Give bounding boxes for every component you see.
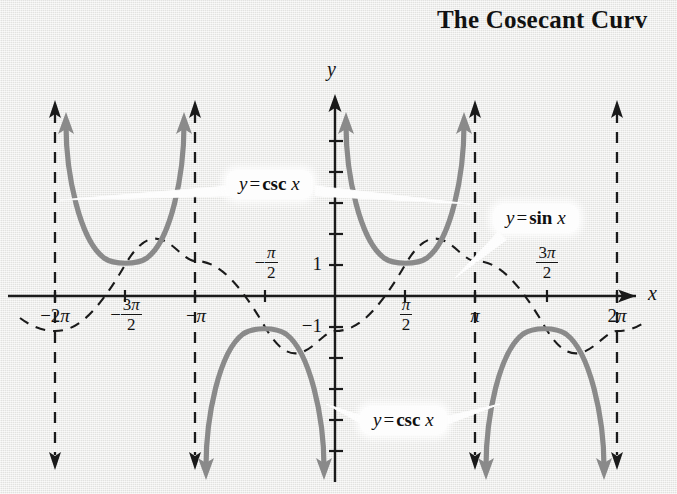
callout-csc-upper: y=csc x: [226, 170, 313, 199]
asymptote-neg-pi: [189, 100, 201, 470]
asymptote-neg-2pi: [49, 100, 61, 470]
callout-csc-lower: y=csc x: [360, 406, 447, 435]
page-title: The Cosecant Curv: [437, 6, 647, 34]
callout-sin-arg: x: [557, 207, 565, 228]
y-tick-neg-1: −1: [284, 315, 322, 337]
callout-csc-upper-fn: csc: [262, 173, 286, 194]
y-axis-label: y: [327, 58, 336, 81]
x-tick-pi: π: [452, 305, 498, 327]
x-tick-neg-pi: −π: [170, 305, 222, 327]
x-tick-pi-over-2: π2: [380, 296, 432, 334]
x-axis-label: x: [648, 282, 657, 305]
x-tick-2pi: 2π: [592, 305, 642, 327]
callout-csc-upper-arg: x: [291, 173, 299, 194]
x-tick-neg-pi-over-2: −π2: [238, 244, 294, 282]
callout-sin: y=sin x: [493, 204, 579, 233]
callout-sin-eq: =: [514, 207, 529, 228]
callout-sin-fn: sin: [529, 207, 552, 228]
callout-csc-lower-arg: x: [425, 409, 433, 430]
csc-branch-4: [486, 329, 604, 467]
callout-csc-lower-eq: =: [381, 409, 396, 430]
asymptote-2pi: [611, 100, 623, 470]
x-tick-neg-2pi: −2π: [25, 305, 85, 327]
x-tick-3pi-over-2: 3π2: [518, 244, 576, 282]
figure-page: The Cosecant Curv y x −2π −3π2 −π −π2 π2…: [0, 0, 677, 494]
y-axis: [329, 94, 342, 482]
y-tick-1: 1: [290, 253, 322, 275]
x-tick-neg-3pi-over-2: −3π2: [95, 296, 157, 334]
callout-csc-upper-eq: =: [247, 173, 262, 194]
callout-csc-lower-fn: csc: [396, 409, 420, 430]
